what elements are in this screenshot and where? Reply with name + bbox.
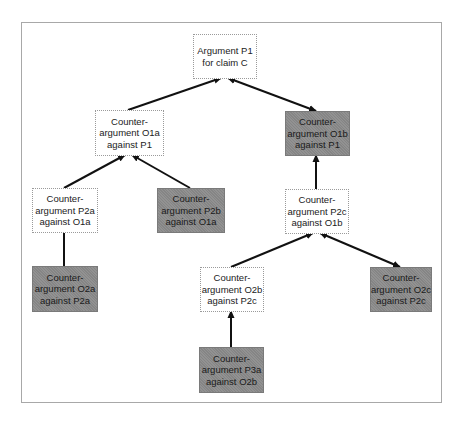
node-label: Counter- (47, 193, 84, 205)
node-p2b: Counter- argument P2b against O1a (157, 188, 225, 233)
node-o2c: Counter- argument O2c against P2c (370, 267, 432, 312)
node-label: Counter- (299, 116, 336, 128)
node-p2c: Counter- argument P2c against O1b (285, 189, 349, 234)
node-label: against O1a (165, 216, 216, 228)
node-label: argument O1b (287, 128, 348, 140)
node-label: against O2b (206, 376, 257, 388)
node-o1b: Counter- argument O1b against P1 (285, 111, 350, 156)
node-label: argument O2a (35, 283, 96, 295)
node-label: against P2c (207, 295, 257, 307)
node-label: against P2a (40, 295, 90, 307)
node-o2b: Counter- argument O2b against P2c (200, 267, 264, 312)
node-label: against O1b (291, 217, 342, 229)
node-label: argument P2b (161, 205, 221, 217)
node-label: argument P2c (287, 206, 346, 218)
edge-o1b-p1-double (228, 78, 316, 111)
node-o2a: Counter- argument O2a against P2a (32, 266, 98, 312)
node-label: Argument P1 (197, 45, 252, 57)
node-label: against O1a (39, 216, 90, 228)
node-label: argument O2b (202, 284, 263, 296)
node-p3a: Counter- argument P3a against O2b (199, 347, 264, 393)
edge-o2c-p2c-double (320, 233, 400, 267)
edge-o2b-to-p2c (231, 233, 313, 267)
node-o1a: Counter- argument O1a against P1 (95, 110, 164, 156)
node-label: argument O2c (371, 284, 431, 296)
node-label: for claim C (202, 57, 247, 69)
node-label: against P1 (107, 139, 152, 151)
node-label: argument P2a (35, 205, 95, 217)
node-p1: Argument P1 for claim C (193, 34, 257, 79)
edge-o1a-to-p1 (128, 78, 221, 110)
node-label: Counter- (213, 353, 250, 365)
node-label: Counter- (47, 272, 84, 284)
node-label: Counter- (173, 193, 210, 205)
node-label: argument P3a (202, 364, 262, 376)
node-label: Counter- (214, 272, 251, 284)
edge-p2b-to-o1a (132, 155, 190, 188)
node-label: argument O1a (99, 127, 160, 139)
node-label: against P1 (295, 139, 340, 151)
node-p2a: Counter- argument P2a against O1a (32, 188, 98, 233)
edge-p2a-to-o1a (64, 155, 125, 188)
node-label: Counter- (383, 272, 420, 284)
node-label: Counter- (299, 194, 336, 206)
node-label: against P2c (376, 295, 426, 307)
node-label: Counter- (111, 116, 148, 128)
